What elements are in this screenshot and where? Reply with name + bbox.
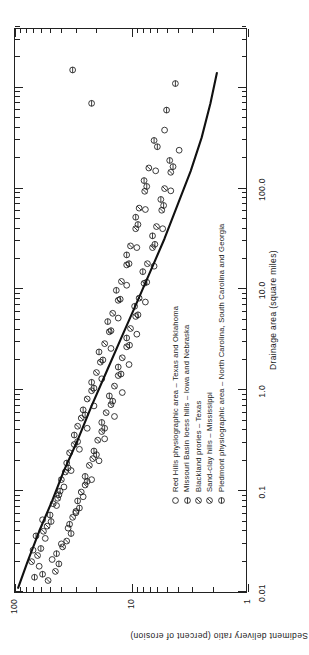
y-tick-right [248, 29, 249, 37]
legend-marker-icon [171, 496, 180, 505]
x-tick [242, 298, 247, 299]
x-tick-top [15, 127, 20, 128]
x-tick [242, 429, 247, 430]
x-tick-top [15, 139, 20, 140]
x-tick [238, 288, 246, 289]
x-tick-top [15, 298, 20, 299]
figure-page: Sediment delivery ratio (percent of eros… [0, 0, 295, 655]
y-tick-right [157, 29, 158, 34]
y-tick [61, 588, 62, 593]
x-tick [242, 460, 247, 461]
x-tick [242, 56, 247, 57]
x-tick [242, 420, 247, 421]
x-tick [242, 210, 247, 211]
y-tick [137, 588, 138, 593]
legend-item-label: Piedmont physiographic area – North Caro… [216, 223, 227, 492]
x-tick [242, 500, 247, 501]
x-tick-top [15, 420, 20, 421]
y-tick [33, 588, 34, 593]
x-tick-top [15, 329, 20, 330]
x-tick-top [15, 258, 20, 259]
y-tick [157, 588, 158, 593]
x-tick [242, 543, 247, 544]
x-tick-top [15, 288, 23, 289]
x-tick-top [15, 521, 20, 522]
x-tick [242, 530, 247, 531]
x-tick-top [15, 429, 20, 430]
y-tick-right [33, 29, 34, 34]
x-tick [242, 127, 247, 128]
x-tick [242, 97, 247, 98]
x-tick [242, 228, 247, 229]
x-tick-top [15, 412, 20, 413]
y-tick [20, 588, 21, 593]
x-tick [238, 389, 246, 390]
x-tick [242, 203, 247, 204]
y-tick [213, 588, 214, 593]
x-tick [242, 197, 247, 198]
x-tick [242, 513, 247, 514]
x-tick [242, 399, 247, 400]
x-tick-top [15, 197, 20, 198]
x-tick-label: 10.0 [257, 282, 267, 300]
y-tick [41, 588, 42, 593]
y-tick-right [50, 29, 51, 34]
x-tick-top [15, 389, 23, 390]
legend-marker-icon [194, 496, 203, 505]
x-tick-top [15, 442, 20, 443]
y-tick [150, 588, 151, 593]
x-tick [242, 240, 247, 241]
legend-marker-icon [217, 496, 226, 505]
x-tick-top [15, 91, 20, 92]
x-tick-top [15, 157, 20, 158]
x-tick-top [15, 293, 20, 294]
y-tick [178, 588, 179, 593]
x-tick-top [15, 109, 20, 110]
x-tick-top [15, 543, 20, 544]
legend-item-label: Red Hills physiographic area – Texas and… [170, 306, 181, 492]
y-tick-label: 10 [126, 599, 136, 627]
y-tick [143, 588, 144, 593]
legend-item-label: Blackland prories – Texas [193, 401, 204, 492]
y-tick-right [132, 29, 133, 37]
y-tick-right [137, 29, 138, 34]
x-tick-top [15, 591, 23, 592]
legend-item: Piedmont physiographic area – North Caro… [216, 223, 227, 505]
x-tick [242, 39, 247, 40]
legend-item: Blackland prories – Texas [193, 223, 204, 505]
x-tick-top [15, 97, 20, 98]
x-tick [242, 329, 247, 330]
y-tick-right [167, 29, 168, 34]
x-tick [242, 218, 247, 219]
x-tick [242, 304, 247, 305]
legend-item-label: Sand-clay hills – Mississippi [204, 392, 215, 492]
x-tick [242, 91, 247, 92]
y-tick-right [20, 29, 21, 34]
x-tick-top [15, 319, 20, 320]
x-tick-top [15, 87, 23, 88]
x-tick-top [15, 490, 23, 491]
rotated-figure-stage: Sediment delivery ratio (percent of eros… [0, 0, 295, 655]
y-tick [192, 588, 193, 593]
y-tick-right [178, 29, 179, 34]
x-tick-label: 1.0 [257, 385, 267, 398]
x-tick [238, 87, 246, 88]
y-tick [15, 584, 16, 592]
x-tick-top [15, 228, 20, 229]
x-tick [242, 442, 247, 443]
x-tick-top [15, 311, 20, 312]
y-tick-right [61, 29, 62, 34]
x-tick-top [15, 240, 20, 241]
x-tick-top [15, 506, 20, 507]
x-tick-top [15, 394, 20, 395]
x-tick [242, 319, 247, 320]
y-tick [132, 584, 133, 592]
y-tick [26, 588, 27, 593]
x-tick-top [15, 304, 20, 305]
x-tick [242, 311, 247, 312]
legend-item-label: Missouri Basin loess hills – Iowa and Ne… [181, 325, 192, 492]
x-tick [242, 405, 247, 406]
x-tick-top [15, 102, 20, 103]
y-tick-label: 1 [242, 599, 252, 627]
y-tick [76, 588, 77, 593]
